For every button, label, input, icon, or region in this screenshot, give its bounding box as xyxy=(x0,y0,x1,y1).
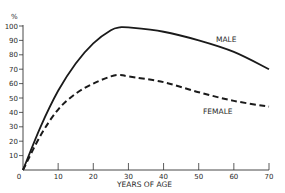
male-curve xyxy=(23,27,269,170)
plot-series xyxy=(23,27,269,170)
y-tick-label: 60 xyxy=(9,80,18,88)
y-tick-label: 40 xyxy=(9,109,18,117)
axes xyxy=(23,25,269,170)
x-tick-label: 20 xyxy=(89,173,98,181)
x-tick-label: 70 xyxy=(265,173,274,181)
y-tick-label: 100 xyxy=(5,23,18,31)
y-tick-label: 70 xyxy=(9,66,18,74)
y-tick-label: 10 xyxy=(9,152,18,160)
chart: 102030405060708090100010203040506070 % Y… xyxy=(0,0,285,193)
x-tick-label: 0 xyxy=(17,173,21,181)
female-series-label: FEMALE xyxy=(203,107,233,116)
y-tick-label: 30 xyxy=(9,123,18,131)
y-tick-label: 20 xyxy=(9,138,18,146)
y-tick-label: 80 xyxy=(9,51,18,59)
x-axis-title: YEARS OF AGE xyxy=(116,180,172,189)
y-tick-label: 90 xyxy=(9,37,18,45)
x-tick-label: 60 xyxy=(229,173,238,181)
x-tick-label: 10 xyxy=(54,173,63,181)
male-series-label: MALE xyxy=(216,35,237,44)
y-tick-label: 50 xyxy=(9,95,18,103)
y-axis-unit-label: % xyxy=(11,13,18,21)
x-tick-label: 50 xyxy=(194,173,203,181)
